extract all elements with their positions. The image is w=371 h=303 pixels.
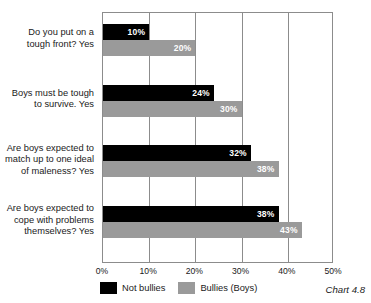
bar-chart: 10%20%24%30%32%38%38%43% Do you put on a…: [0, 0, 371, 303]
x-tick-label: 40%: [267, 266, 307, 276]
bar-bullies-boys: 43%: [103, 222, 302, 238]
bar-value-label: 24%: [192, 88, 210, 97]
bar-bullies-boys: 20%: [103, 40, 195, 56]
bar-not-bullies: 10%: [103, 24, 149, 40]
category-label: Are boys expected to match up to one ide…: [0, 143, 94, 178]
legend-swatch-not-bullies: [100, 282, 117, 294]
x-tick-label: 30%: [221, 266, 261, 276]
x-tick-label: 10%: [128, 266, 168, 276]
bar-value-label: 38%: [257, 165, 275, 174]
bar-value-label: 20%: [174, 44, 192, 53]
legend-swatch-bullies-boys: [178, 282, 195, 294]
bar-bullies-boys: 30%: [103, 101, 242, 117]
category-label: Do you put on a tough front? Yes: [0, 27, 94, 50]
category-label: Boys must be tough to survive. Yes: [0, 88, 94, 111]
bar-value-label: 43%: [280, 225, 298, 234]
bar-bullies-boys: 38%: [103, 161, 279, 177]
plot-area: 10%20%24%30%32%38%38%43%: [102, 12, 333, 263]
chart-legend: Not bullies Bullies (Boys): [100, 282, 265, 294]
bar-value-label: 30%: [220, 104, 238, 113]
bar-value-label: 10%: [128, 28, 146, 37]
x-tick-label: 50%: [313, 266, 353, 276]
chart-caption: Chart 4.8: [326, 284, 365, 295]
category-label: Are boys expected to cope with problems …: [0, 203, 94, 238]
legend-label-bullies-boys: Bullies (Boys): [200, 283, 257, 293]
x-tick-label: 0%: [82, 266, 122, 276]
bar-not-bullies: 24%: [103, 85, 214, 101]
bar-not-bullies: 32%: [103, 145, 251, 161]
bar-not-bullies: 38%: [103, 206, 279, 222]
legend-label-not-bullies: Not bullies: [122, 283, 165, 293]
bar-value-label: 32%: [229, 149, 247, 158]
x-tick-label: 20%: [174, 266, 214, 276]
bar-value-label: 38%: [257, 209, 275, 218]
